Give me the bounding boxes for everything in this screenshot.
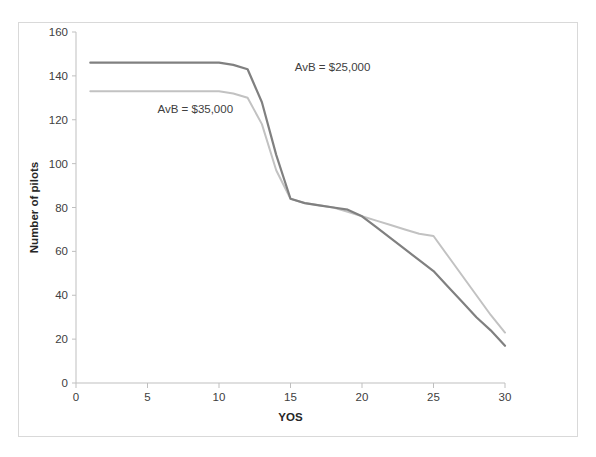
figure-canvas: 020406080100120140160051015202530AvB = $… bbox=[0, 0, 596, 457]
chart-frame bbox=[18, 22, 578, 437]
caption-sliver bbox=[0, 0, 596, 14]
